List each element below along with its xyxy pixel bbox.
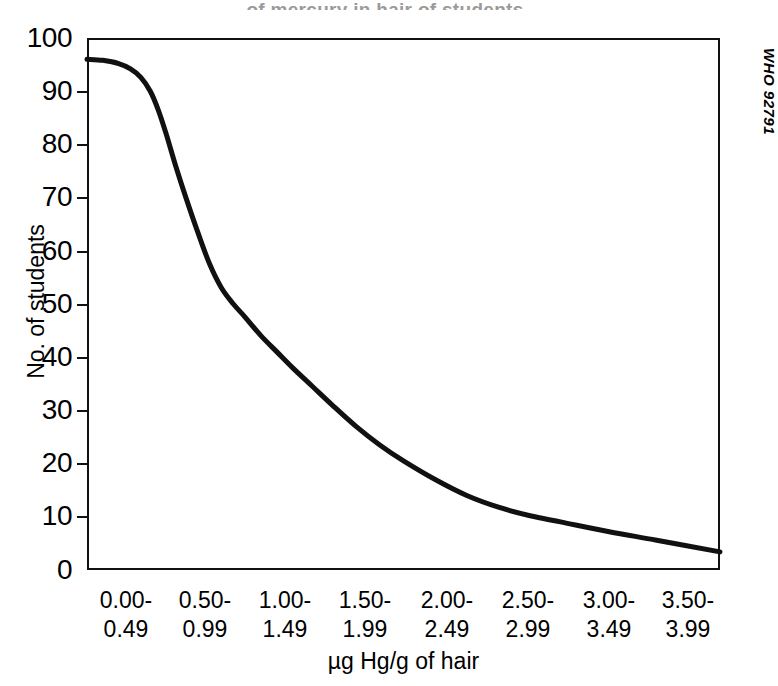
data-series-line: [87, 59, 720, 552]
x-tick-label-1: 0.50- 0.99: [160, 586, 250, 644]
x-tick-label-7: 3.50- 3.99: [643, 586, 733, 644]
cropped-title-remnant: of mercury in hair of students: [150, 0, 620, 10]
plot-canvas: [87, 38, 720, 570]
y-tick-label-20: 20: [0, 449, 72, 477]
x-tick-label-4: 2.00- 2.49: [402, 586, 492, 644]
x-tick-label-6: 3.00- 3.49: [564, 586, 654, 644]
y-tick-label-80: 80: [0, 130, 72, 158]
x-tick-label-3: 1.50- 1.99: [320, 586, 410, 644]
y-tick-label-90: 90: [0, 77, 72, 105]
x-tick-label-0: 0.00- 0.49: [81, 586, 171, 644]
who-source-code: WHO 92791: [762, 22, 777, 162]
x-tick-label-2: 1.00- 1.49: [240, 586, 330, 644]
y-tick-label-0: 0: [0, 556, 72, 584]
y-axis-title: No. of students: [25, 192, 48, 412]
y-tick-label-10: 10: [0, 502, 72, 530]
x-tick-label-5: 2.50- 2.99: [483, 586, 573, 644]
y-tick-label-100: 100: [0, 24, 72, 52]
x-axis-tick-labels: 0.00- 0.49 0.50- 0.99 1.00- 1.49 1.50- 1…: [87, 586, 720, 648]
x-axis-title: µg Hg/g of hair: [87, 648, 720, 674]
